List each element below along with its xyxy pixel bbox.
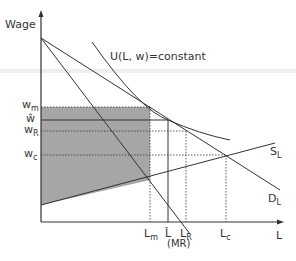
x-axis-arrow-icon: [277, 220, 284, 225]
Lhat-label: L̂: [164, 227, 172, 240]
y-axis-arrow-icon: [39, 10, 44, 17]
Lc-label: Lc: [220, 227, 231, 242]
background-band: [0, 69, 296, 73]
LR-label: LR: [180, 227, 192, 242]
x-axis-label: L: [276, 229, 283, 242]
utility-label: U(L, w)=constant: [110, 50, 206, 63]
monopsony-union-diagram: Wage L U(L, w)=constant SL DL (MR) wm ŵ …: [0, 0, 296, 261]
supply-label: SL: [270, 145, 282, 160]
wc-label: wc: [24, 147, 37, 162]
wm-label: wm: [22, 98, 39, 113]
demand-label: DL: [268, 192, 281, 207]
wR-label: wR: [24, 123, 39, 138]
y-axis-label: Wage: [5, 18, 36, 31]
Lm-label: Lm: [144, 227, 158, 242]
